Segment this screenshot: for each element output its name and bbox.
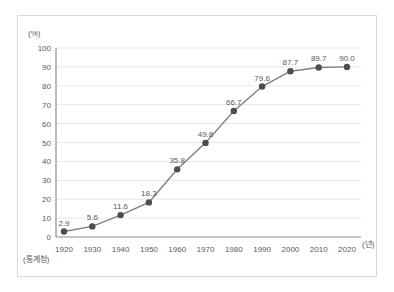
chart-panel: 0102030405060708090100192019301940195019… — [17, 15, 377, 277]
data-point — [117, 212, 123, 218]
data-point-label: 90.0 — [339, 54, 355, 63]
data-point-label: 35.8 — [169, 156, 185, 165]
series-line — [64, 67, 347, 232]
data-point-label: 87.7 — [283, 58, 299, 67]
data-point — [287, 68, 293, 74]
data-point — [202, 140, 208, 146]
x-tick-label: 2020 — [338, 245, 356, 254]
y-tick-label: 50 — [42, 139, 51, 148]
y-tick-label: 40 — [42, 157, 51, 166]
x-tick-label: 1930 — [83, 245, 101, 254]
x-tick-label: 1950 — [140, 245, 158, 254]
x-tick-label: 1960 — [168, 245, 186, 254]
data-point-label: 89.7 — [311, 54, 327, 63]
data-point — [89, 223, 95, 229]
x-tick-label: 1920 — [55, 245, 73, 254]
y-axis-unit-label: (%) — [28, 29, 40, 38]
x-tick-label: 1980 — [225, 245, 243, 254]
data-point-label: 11.6 — [113, 202, 129, 211]
data-point-label: 2.9 — [58, 219, 70, 228]
source-label: (통계청) — [23, 253, 49, 264]
data-point-label: 49.8 — [198, 130, 214, 139]
x-tick-label: 1940 — [112, 245, 130, 254]
figure-canvas: 0102030405060708090100192019301940195019… — [0, 0, 394, 292]
x-tick-label: 2000 — [282, 245, 300, 254]
y-tick-label: 80 — [42, 82, 51, 91]
y-tick-label: 70 — [42, 101, 51, 110]
data-point — [61, 228, 67, 234]
y-tick-label: 90 — [42, 63, 51, 72]
y-tick-label: 0 — [47, 233, 52, 242]
data-point-label: 18.3 — [141, 189, 157, 198]
data-point — [316, 64, 322, 70]
x-tick-label: 1970 — [197, 245, 215, 254]
data-point-label: 66.7 — [226, 98, 242, 107]
data-point — [259, 83, 265, 89]
y-tick-label: 30 — [42, 176, 51, 185]
y-tick-label: 10 — [42, 214, 51, 223]
data-point — [174, 166, 180, 172]
data-point — [146, 199, 152, 205]
line-chart: 0102030405060708090100192019301940195019… — [18, 16, 378, 278]
data-point — [231, 108, 237, 114]
y-tick-label: 60 — [42, 120, 51, 129]
y-tick-label: 20 — [42, 195, 51, 204]
x-tick-label: 1990 — [253, 245, 271, 254]
data-point-label: 5.6 — [87, 213, 99, 222]
x-axis-unit-label: (년) — [362, 238, 374, 249]
data-point-label: 79.6 — [254, 74, 270, 83]
x-tick-label: 2010 — [310, 245, 328, 254]
data-point — [344, 64, 350, 70]
y-tick-label: 100 — [38, 44, 52, 53]
